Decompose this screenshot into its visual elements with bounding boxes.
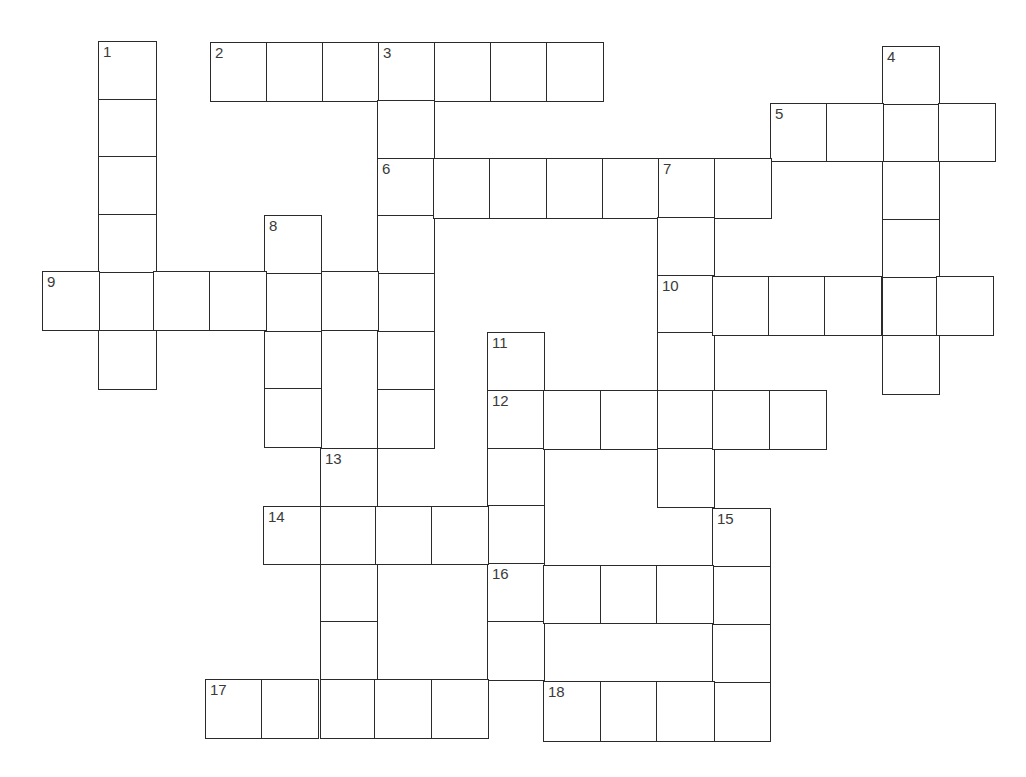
crossword-cell[interactable]: 1 — [98, 41, 157, 101]
letter-input[interactable] — [547, 43, 603, 101]
letter-input[interactable] — [713, 277, 769, 335]
crossword-cell[interactable] — [714, 158, 772, 219]
letter-input[interactable] — [658, 391, 714, 449]
letter-input[interactable] — [378, 216, 434, 274]
letter-input[interactable] — [658, 276, 714, 334]
letter-input[interactable] — [321, 449, 377, 507]
letter-input[interactable] — [488, 391, 544, 449]
letter-input[interactable] — [601, 682, 658, 741]
crossword-cell[interactable] — [490, 42, 548, 102]
crossword-cell[interactable] — [602, 158, 660, 219]
crossword-cell[interactable] — [487, 448, 545, 508]
letter-input[interactable] — [265, 332, 321, 390]
crossword-cell[interactable] — [769, 390, 827, 450]
crossword-cell[interactable] — [657, 332, 715, 392]
letter-input[interactable] — [658, 449, 714, 507]
crossword-cell[interactable] — [712, 390, 770, 450]
letter-input[interactable] — [601, 566, 657, 623]
crossword-cell[interactable] — [882, 104, 940, 164]
crossword-cell[interactable]: 12 — [487, 390, 545, 450]
crossword-cell[interactable] — [936, 276, 994, 336]
crossword-cell[interactable] — [377, 331, 435, 391]
letter-input[interactable] — [488, 564, 544, 622]
letter-input[interactable] — [321, 565, 377, 623]
crossword-cell[interactable]: 17 — [205, 679, 263, 739]
letter-input[interactable] — [434, 159, 490, 218]
crossword-cell[interactable] — [657, 390, 715, 450]
letter-input[interactable] — [544, 682, 601, 741]
letter-input[interactable] — [713, 391, 769, 449]
letter-input[interactable] — [883, 47, 939, 105]
crossword-cell[interactable] — [209, 271, 267, 331]
letter-input[interactable] — [265, 389, 321, 447]
crossword-cell[interactable]: 14 — [263, 506, 321, 565]
crossword-cell[interactable] — [600, 565, 658, 624]
letter-input[interactable] — [432, 680, 488, 738]
crossword-cell[interactable] — [264, 388, 322, 448]
crossword-cell[interactable] — [712, 276, 770, 336]
crossword-cell[interactable] — [377, 273, 435, 333]
crossword-cell[interactable] — [882, 161, 940, 221]
crossword-cell[interactable] — [377, 100, 435, 160]
letter-input[interactable] — [378, 159, 434, 217]
crossword-cell[interactable] — [320, 621, 378, 681]
letter-input[interactable] — [825, 277, 881, 335]
crossword-cell[interactable]: 15 — [712, 508, 771, 568]
crossword-cell[interactable] — [712, 682, 771, 742]
crossword-cell[interactable] — [431, 506, 489, 565]
letter-input[interactable] — [657, 682, 714, 741]
letter-input[interactable] — [435, 43, 491, 101]
crossword-cell[interactable] — [98, 214, 157, 274]
letter-input[interactable] — [379, 43, 435, 101]
crossword-cell[interactable] — [882, 335, 940, 395]
crossword-cell[interactable]: 6 — [377, 158, 435, 218]
letter-input[interactable] — [659, 159, 715, 218]
letter-input[interactable] — [210, 272, 266, 330]
letter-input[interactable] — [378, 390, 434, 448]
crossword-cell[interactable] — [264, 273, 322, 333]
crossword-cell[interactable] — [487, 505, 545, 565]
crossword-cell[interactable] — [98, 156, 157, 216]
letter-input[interactable] — [378, 274, 434, 332]
letter-input[interactable] — [658, 218, 714, 276]
letter-input[interactable] — [321, 507, 377, 565]
letter-input[interactable] — [376, 507, 432, 564]
letter-input[interactable] — [378, 332, 434, 390]
crossword-cell[interactable] — [824, 276, 882, 336]
letter-input[interactable] — [491, 43, 547, 101]
crossword-cell[interactable] — [768, 276, 826, 336]
crossword-cell[interactable] — [98, 330, 157, 390]
letter-input[interactable] — [770, 391, 826, 449]
crossword-cell[interactable] — [489, 158, 547, 219]
letter-input[interactable] — [713, 625, 770, 683]
letter-input[interactable] — [827, 104, 883, 161]
letter-input[interactable] — [544, 391, 600, 449]
crossword-cell[interactable] — [431, 679, 489, 739]
crossword-cell[interactable] — [377, 389, 435, 449]
letter-input[interactable] — [657, 566, 713, 623]
letter-input[interactable] — [883, 336, 939, 394]
crossword-cell[interactable] — [657, 448, 715, 508]
letter-input[interactable] — [43, 272, 99, 330]
crossword-cell[interactable]: 18 — [543, 681, 602, 742]
letter-input[interactable] — [154, 272, 210, 330]
crossword-cell[interactable]: 8 — [264, 215, 322, 275]
letter-input[interactable] — [937, 277, 993, 335]
letter-input[interactable] — [713, 683, 770, 741]
letter-input[interactable] — [267, 43, 323, 101]
crossword-cell[interactable] — [377, 215, 435, 275]
letter-input[interactable] — [603, 159, 659, 218]
crossword-cell[interactable]: 9 — [42, 271, 100, 331]
letter-input[interactable] — [713, 509, 770, 567]
letter-input[interactable] — [488, 449, 544, 507]
crossword-cell[interactable] — [546, 42, 604, 102]
letter-input[interactable] — [99, 100, 156, 158]
crossword-cell[interactable] — [882, 219, 940, 279]
crossword-cell[interactable] — [375, 506, 433, 565]
crossword-cell[interactable] — [320, 506, 378, 566]
crossword-cell[interactable] — [656, 565, 714, 624]
crossword-cell[interactable] — [600, 681, 659, 742]
letter-input[interactable] — [321, 622, 377, 680]
letter-input[interactable] — [265, 274, 321, 332]
letter-input[interactable] — [265, 216, 321, 274]
